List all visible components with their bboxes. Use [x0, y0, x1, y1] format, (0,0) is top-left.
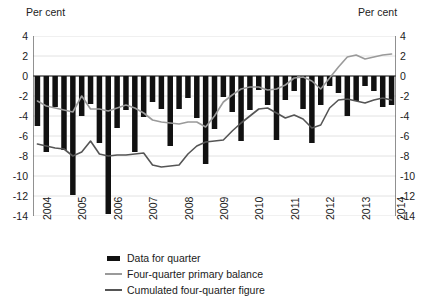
x-axis-tick-label: 2007 [148, 197, 159, 220]
left-axis-tick-label: 4 [0, 31, 28, 42]
left-axis-tick-label: -14 [0, 211, 28, 222]
bar [247, 76, 252, 110]
legend-line-swatch-icon [105, 284, 122, 296]
x-axis-tick-label: 2008 [184, 197, 195, 220]
bar [318, 76, 323, 105]
x-axis-tick-label: 2005 [77, 197, 88, 220]
bar [371, 76, 376, 91]
bar [336, 76, 341, 93]
bar [353, 76, 358, 101]
bar [167, 76, 172, 146]
legend-item-label: Cumulated four-quarter figure [127, 284, 265, 296]
x-axis-tick-label: 2012 [325, 197, 336, 220]
right-axis-tick-label: -10 [400, 171, 430, 182]
right-axis-tick-label: -6 [400, 131, 430, 142]
right-axis-tick-label: -4 [400, 111, 430, 122]
plot-area [33, 36, 396, 216]
bar [44, 76, 49, 152]
bar [203, 76, 208, 164]
bar [221, 76, 226, 97]
x-axis-tick-label: 2009 [219, 197, 230, 220]
right-axis-tick-label: 2 [400, 51, 430, 62]
x-axis-tick-label: 2010 [254, 197, 265, 220]
bar [114, 76, 119, 128]
bar [132, 76, 137, 152]
bar [212, 76, 217, 129]
bar [70, 76, 75, 195]
left-axis-tick-label: -10 [0, 171, 28, 182]
bar [52, 76, 57, 107]
legend-item-label: Data for quarter [127, 252, 201, 264]
bar [300, 76, 305, 109]
left-axis-tick-label: -4 [0, 111, 28, 122]
chart-svg [33, 36, 396, 216]
left-axis-tick-label: -2 [0, 91, 28, 102]
x-axis-tick-label: 2004 [42, 197, 53, 220]
left-axis-tick-label: 2 [0, 51, 28, 62]
x-axis-tick-label: 2006 [113, 197, 124, 220]
x-axis-tick-label: 2013 [361, 197, 372, 220]
right-axis-unit-label: Per cent [358, 6, 397, 18]
bar [380, 76, 385, 107]
bar-series [35, 76, 395, 214]
legend-item: Cumulated four-quarter figure [105, 282, 355, 298]
legend-bar-swatch-icon [105, 252, 122, 264]
legend-item: Four-quarter primary balance [105, 266, 355, 282]
bar [150, 76, 155, 102]
legend-line-swatch-icon [105, 268, 122, 280]
right-axis-tick-label: 4 [400, 31, 430, 42]
left-axis-tick-label: 0 [0, 71, 28, 82]
bar [61, 76, 66, 150]
bar [194, 76, 199, 118]
legend-item: Data for quarter [105, 250, 355, 266]
x-axis-tick-label: 2011 [290, 197, 301, 220]
bar [309, 76, 314, 143]
x-axis-tick-label: 2014 [396, 197, 407, 220]
bar [185, 76, 190, 98]
chart-figure: Per cent Per cent 420-2-4-6-8-10-12-14 4… [0, 0, 434, 306]
bar [176, 76, 181, 109]
right-axis-tick-label: -8 [400, 151, 430, 162]
left-axis-unit-label: Per cent [26, 6, 65, 18]
bar [283, 76, 288, 100]
bar [88, 76, 93, 104]
left-axis-tick-label: -6 [0, 131, 28, 142]
bar [274, 76, 279, 140]
bar [345, 76, 350, 116]
bar [238, 76, 243, 141]
bar [159, 76, 164, 109]
legend-item-label: Four-quarter primary balance [127, 268, 263, 280]
left-axis-tick-label: -12 [0, 191, 28, 202]
left-axis-tick-label: -8 [0, 151, 28, 162]
bar [362, 76, 367, 86]
bar [141, 76, 146, 117]
bar [106, 76, 111, 214]
right-axis-tick-label: 0 [400, 71, 430, 82]
chart-legend: Data for quarterFour-quarter primary bal… [105, 250, 355, 298]
right-axis-tick-label: -2 [400, 91, 430, 102]
